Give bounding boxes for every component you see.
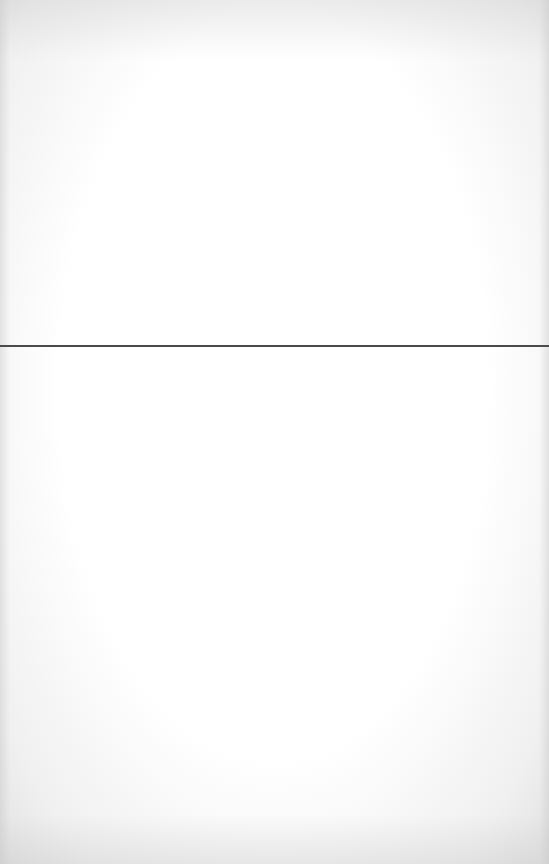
- scan-shadow-left: [0, 0, 10, 864]
- horizontal-divider: [0, 345, 549, 347]
- scan-shadow-right: [539, 0, 549, 864]
- scan-shadow-top: [0, 0, 549, 60]
- document-page: [0, 0, 549, 864]
- scan-shadow-bottom: [0, 814, 549, 864]
